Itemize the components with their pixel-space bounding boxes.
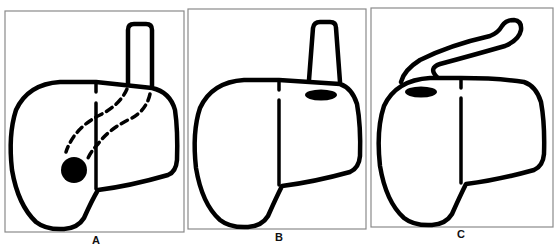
panel-a-tube bbox=[128, 24, 152, 86]
panel-a bbox=[5, 11, 184, 232]
diagram-canvas bbox=[0, 0, 560, 249]
panel-b-label: B bbox=[275, 231, 283, 243]
panel-a-organ-outline bbox=[11, 82, 178, 229]
figure-three-panels: A B C bbox=[0, 0, 560, 249]
panel-b-tube bbox=[309, 22, 340, 82]
panel-c bbox=[371, 8, 553, 227]
panel-c-tube bbox=[401, 20, 521, 82]
panel-b bbox=[188, 9, 366, 229]
panel-c-label: C bbox=[457, 228, 465, 240]
panel-b-oval-lesion bbox=[305, 90, 337, 101]
panel-a-round-lesion bbox=[61, 157, 87, 183]
panel-a-label: A bbox=[92, 234, 100, 246]
panel-c-oval-lesion bbox=[405, 87, 437, 98]
